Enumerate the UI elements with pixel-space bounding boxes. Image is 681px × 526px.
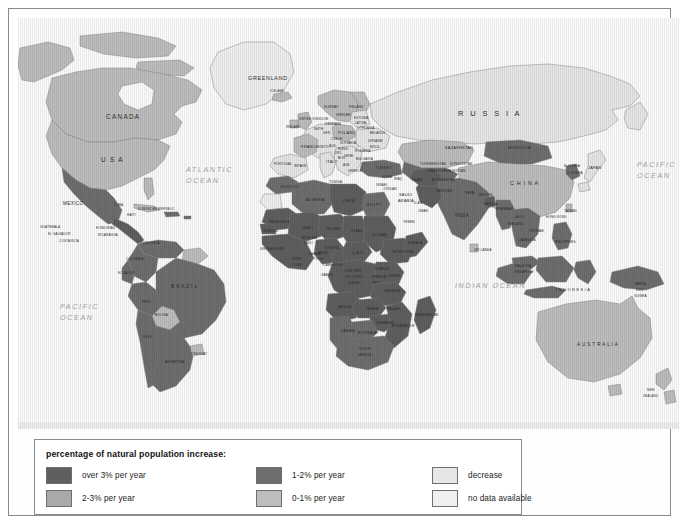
legend-label-decrease: decrease (468, 471, 502, 480)
map-canvas[interactable]: ATLANTICOCEANPACIFICOCEANPACIFICOCEANIND… (18, 18, 679, 429)
legend-swatch-decrease (432, 467, 458, 484)
print-hatch-overlay (18, 18, 679, 429)
legend-swatch-over_3 (46, 467, 72, 484)
world-map-figure: ATLANTICOCEANPACIFICOCEANPACIFICOCEANIND… (0, 0, 681, 526)
legend-label-over_3: over 3% per year (82, 471, 146, 480)
legend-swatch-zero_one (256, 490, 282, 507)
world-map-graphic[interactable] (18, 18, 679, 429)
legend-swatch-no_data (432, 490, 458, 507)
legend-label-zero_one: 0-1% per year (292, 494, 345, 503)
legend-title: percentage of natural population increas… (46, 449, 226, 459)
legend-swatch-two_three (46, 490, 72, 507)
figure-frame: ATLANTICOCEANPACIFICOCEANPACIFICOCEANIND… (8, 8, 671, 516)
legend-label-two_three: 2-3% per year (82, 494, 135, 503)
legend-swatch-one_two (256, 467, 282, 484)
legend-label-no_data: no data available (468, 494, 532, 503)
legend-label-one_two: 1-2% per year (292, 471, 345, 480)
map-legend: percentage of natural population increas… (34, 439, 522, 515)
